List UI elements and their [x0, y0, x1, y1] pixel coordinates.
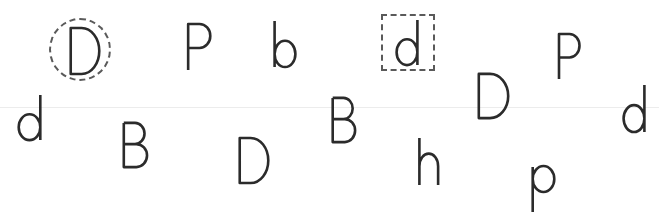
- glyph-b-icon: [272, 21, 298, 68]
- glyph-D-icon: [237, 137, 271, 184]
- letter-B-9[interactable]: [121, 122, 149, 168]
- letter-D-5[interactable]: [476, 73, 511, 119]
- glyph-d-icon: [394, 20, 420, 66]
- glyph-P-icon: [186, 23, 213, 71]
- glyph-p-icon: [530, 162, 557, 212]
- letter-B-7[interactable]: [330, 97, 357, 143]
- letter-p-12[interactable]: [530, 162, 557, 212]
- letter-P-4[interactable]: [557, 33, 582, 80]
- glyph-D-icon: [476, 73, 511, 119]
- letter-d-8[interactable]: [621, 85, 647, 133]
- letter-P-1[interactable]: [186, 23, 213, 71]
- glyph-h-icon: [417, 138, 441, 185]
- letter-b-2[interactable]: [272, 21, 298, 68]
- glyph-P-icon: [557, 33, 582, 80]
- letter-board: [0, 0, 659, 221]
- glyph-B-icon: [330, 97, 357, 143]
- glyph-d-icon: [16, 95, 43, 141]
- glyph-B-icon: [121, 122, 149, 168]
- letter-h-11[interactable]: [417, 138, 441, 185]
- letter-D-10[interactable]: [237, 137, 271, 184]
- letter-d-3[interactable]: [394, 20, 420, 66]
- glyph-D-icon: [68, 27, 102, 75]
- letter-D-0[interactable]: [68, 27, 102, 75]
- glyph-d-icon: [621, 85, 647, 133]
- letter-d-6[interactable]: [16, 95, 43, 141]
